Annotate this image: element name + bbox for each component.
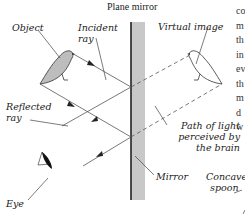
label-concave-line1: Concave <box>206 171 245 182</box>
text-fragment: th <box>236 33 245 48</box>
reflected-ray-lower <box>83 137 131 166</box>
arrow-head <box>96 151 103 157</box>
label-path-line2: perceived by <box>170 131 240 142</box>
spoon-edge <box>243 210 245 214</box>
text-fragment: d <box>236 106 245 121</box>
leader-object <box>38 30 60 58</box>
text-fragment: w <box>236 120 245 135</box>
object-bird-icon <box>40 51 75 84</box>
text-fragment: m <box>236 91 245 106</box>
label-incident-line1: Incident <box>78 22 118 33</box>
virtual-image-bird-icon <box>187 51 222 84</box>
label-object: Object <box>12 22 44 33</box>
label-reflected-line2: ray <box>6 112 22 123</box>
label-path-line1: Path of light <box>170 120 240 131</box>
mirror-glass <box>131 22 145 200</box>
leader-reflected <box>30 120 68 126</box>
arrow-head <box>87 60 95 66</box>
text-fragment: th <box>236 77 245 92</box>
text-fragment: co <box>236 4 245 19</box>
label-eye: Eye <box>6 198 24 209</box>
label-mirror: Mirror <box>156 171 188 182</box>
cropped-body-text: co m th in ev th m d w <box>236 4 245 135</box>
label-incident-line2: ray <box>78 33 94 44</box>
diagram-title: Plane mirror <box>107 1 157 12</box>
label-reflected-line1: Reflected <box>6 101 52 112</box>
incident-ray-lower <box>40 84 131 137</box>
eye-icon <box>38 152 52 169</box>
text-fragment: m <box>236 19 245 34</box>
leader-eye <box>28 178 48 200</box>
label-path-line3: the brain <box>170 142 240 153</box>
text-fragment: ev <box>236 62 245 77</box>
label-virtual-image: Virtual image <box>158 21 223 32</box>
label-concave-line2: spoon <box>210 182 239 193</box>
leader-incident <box>96 38 106 80</box>
text-fragment: in <box>236 48 245 63</box>
arrow-head <box>91 116 98 122</box>
